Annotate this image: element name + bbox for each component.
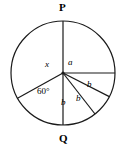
angle-label-b-1: b	[87, 80, 92, 89]
vertex-label-p: P	[59, 2, 66, 13]
angle-label-b-2: b	[76, 94, 81, 103]
angle-label-60-degrees: 60°	[37, 87, 50, 96]
angle-label-b-3: b	[61, 98, 66, 107]
figure-container: P Q x a b b b 60°	[0, 0, 131, 149]
vertex-label-q: Q	[59, 133, 68, 144]
circle-diagram	[0, 0, 131, 149]
angle-label-x: x	[45, 60, 49, 69]
angle-label-a: a	[68, 58, 73, 67]
center-point	[61, 71, 64, 74]
